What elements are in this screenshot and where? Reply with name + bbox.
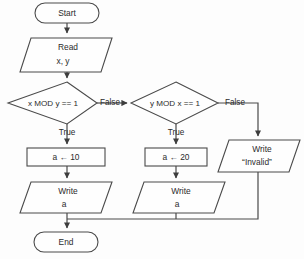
edge-cond2-false-to-write-invalid (218, 103, 258, 136)
write-a-left-label-line2: a (62, 199, 67, 209)
node-start[interactable]: Start (35, 3, 99, 23)
assign20-label: a ← 20 (162, 152, 189, 162)
flowchart-svg: Start Read x, y x MOD y == 1 y MOD x == … (0, 0, 304, 259)
write-a-left-label-line1: Write (58, 186, 78, 196)
node-write-invalid[interactable]: Write “Invalid” (218, 140, 300, 172)
flowchart-canvas: Start Read x, y x MOD y == 1 y MOD x == … (0, 0, 304, 259)
edge-label-cond1-false: False (100, 98, 120, 107)
write-invalid-label-line2: “Invalid” (242, 157, 272, 167)
write-a-mid-label-line2: a (175, 199, 180, 209)
node-write-a-left[interactable]: Write a (20, 182, 112, 213)
node-condition-2[interactable]: y MOD x == 1 (131, 82, 218, 124)
edge-label-cond1-true: True (59, 128, 76, 137)
read-label-line2: x, y (56, 56, 70, 66)
node-condition-1[interactable]: x MOD y == 1 (8, 82, 97, 124)
cond2-label: y MOD x == 1 (150, 99, 200, 108)
node-assign-10[interactable]: a ← 10 (27, 148, 105, 166)
node-assign-20[interactable]: a ← 20 (145, 148, 207, 166)
cond1-label: x MOD y == 1 (28, 99, 78, 108)
node-end[interactable]: End (34, 232, 98, 252)
assign10-label: a ← 10 (52, 152, 79, 162)
edge-label-cond2-false: False (225, 98, 245, 107)
read-label-line1: Read (58, 42, 78, 52)
write-invalid-label-line1: Write (252, 144, 272, 154)
end-label: End (59, 237, 74, 247)
write-a-mid-label-line1: Write (171, 186, 191, 196)
node-write-a-mid[interactable]: Write a (133, 182, 225, 213)
start-label: Start (58, 8, 76, 18)
edge-label-cond2-true: True (168, 128, 185, 137)
node-read[interactable]: Read x, y (20, 38, 112, 72)
